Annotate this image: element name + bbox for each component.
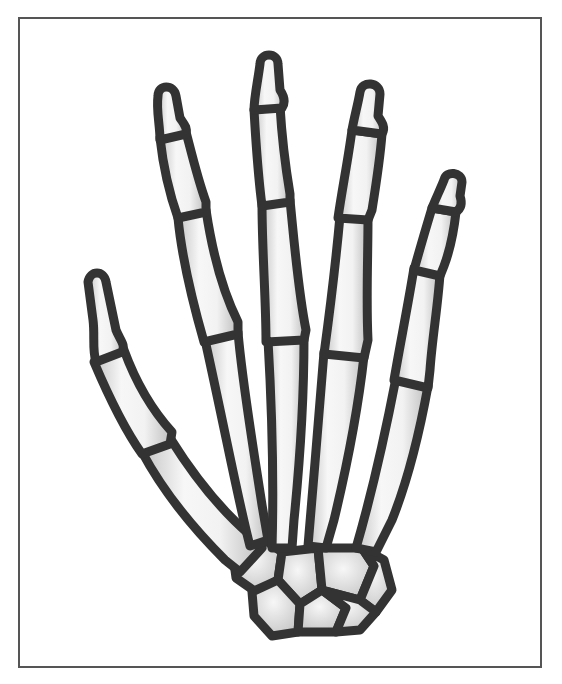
finger-middle: [254, 55, 306, 548]
hand-skeleton-illustration: [0, 0, 562, 684]
